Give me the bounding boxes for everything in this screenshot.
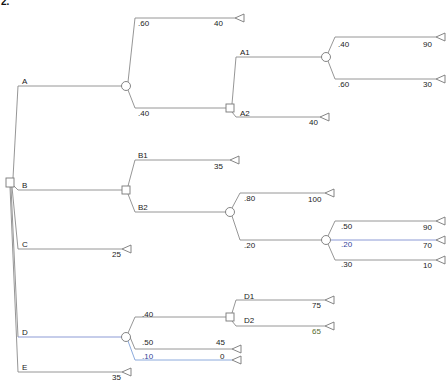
prob-label: .60 xyxy=(138,19,149,28)
payoff-label: 65 xyxy=(312,327,321,336)
branch-label-a1: A1 xyxy=(240,48,250,57)
payoff-label: 10 xyxy=(423,261,432,270)
edge-root-c xyxy=(12,187,18,249)
payoff-label: 100 xyxy=(308,195,321,204)
branch-label-d: D xyxy=(22,328,28,337)
prob-label: .50 xyxy=(142,338,153,347)
edge-root-a xyxy=(13,86,18,178)
branch-label-b: B xyxy=(22,181,27,190)
branch-a-40 xyxy=(128,90,226,108)
payoff-label: 30 xyxy=(423,80,432,89)
prob-label: .50 xyxy=(341,222,352,231)
branch-d-40 xyxy=(128,317,226,333)
branch-label-b2: B2 xyxy=(138,203,148,212)
terminal-icon xyxy=(436,33,445,41)
terminal-icon xyxy=(325,189,334,197)
prob-label: .60 xyxy=(338,80,349,89)
terminal-icon xyxy=(436,236,445,244)
terminal-icon xyxy=(235,14,244,22)
decision-node-b xyxy=(122,186,130,194)
payoff-label: 45 xyxy=(216,338,225,347)
root-decision-node xyxy=(6,178,14,187)
terminal-icon xyxy=(436,217,445,225)
terminal-icon xyxy=(230,156,239,164)
decision-node-a xyxy=(226,104,234,112)
payoff-label: 40 xyxy=(214,19,223,28)
prob-label: .80 xyxy=(244,194,255,203)
payoff-label: 70 xyxy=(423,241,432,250)
terminal-icon xyxy=(122,245,131,253)
terminal-icon xyxy=(232,356,241,364)
branch-label-a2: A2 xyxy=(240,109,250,118)
prob-label: .10 xyxy=(142,352,153,361)
chance-node-a1 xyxy=(322,53,331,62)
edge-root-e xyxy=(10,187,18,372)
branch-label-d2: D2 xyxy=(244,316,254,325)
terminal-icon xyxy=(122,368,131,376)
payoff-label: 0 xyxy=(220,352,224,361)
terminal-icon xyxy=(325,322,334,330)
branch-a1-60 xyxy=(328,61,436,79)
payoff-label: 75 xyxy=(312,301,321,310)
prob-label: .40 xyxy=(138,109,149,118)
branch-label-c: C xyxy=(22,240,28,249)
prob-label: .20 xyxy=(244,241,255,250)
branch-a1 xyxy=(232,57,322,104)
branch-label-a: A xyxy=(22,77,27,86)
prob-label: .40 xyxy=(142,310,153,319)
payoff-label: 90 xyxy=(423,223,432,232)
prob-label: .40 xyxy=(338,40,349,49)
payoff-label: 40 xyxy=(309,118,318,127)
payoff-label: 35 xyxy=(112,373,121,382)
prob-label: .30 xyxy=(341,260,352,269)
terminal-icon xyxy=(325,296,334,304)
chance-node-d xyxy=(122,333,131,342)
terminal-icon xyxy=(436,75,445,83)
branch-label-e: E xyxy=(22,363,27,372)
terminal-icon xyxy=(436,256,445,264)
payoff-label: 25 xyxy=(112,250,121,259)
payoff-label: 35 xyxy=(214,162,223,171)
branch-b2-20 xyxy=(232,216,322,240)
edge-root-b xyxy=(14,186,18,190)
terminal-icon xyxy=(320,113,329,121)
decision-node-d xyxy=(226,313,234,321)
chance-node-b2-20 xyxy=(322,236,331,245)
chance-node-b2 xyxy=(226,208,235,217)
payoff-label: 90 xyxy=(423,40,432,49)
terminal-icon xyxy=(232,345,241,353)
chance-node-a xyxy=(122,82,131,91)
prob-label: .20 xyxy=(341,240,352,249)
decision-tree xyxy=(0,0,447,382)
branch-label-d1: D1 xyxy=(244,292,254,301)
branch-label-b1: B1 xyxy=(138,151,148,160)
